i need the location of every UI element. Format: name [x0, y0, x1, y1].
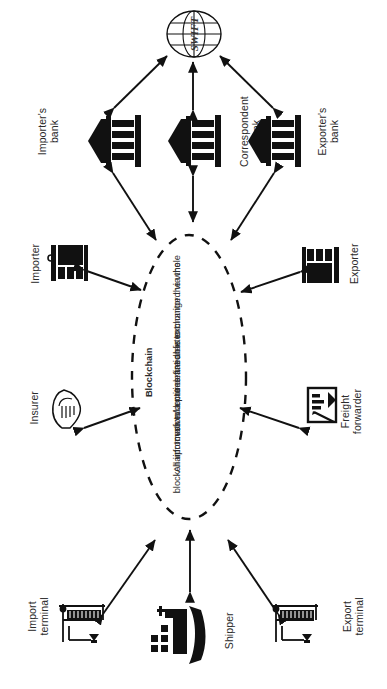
arrow-importers-bank-blockchain: [113, 173, 156, 240]
entity-label-freight-forwarder: Freight forwarder: [340, 379, 363, 445]
arrow-importers-bank-swift: [114, 56, 167, 108]
entity-node-import-terminal: [55, 600, 111, 650]
bank-node-correspondent-bank: [166, 112, 222, 170]
entity-label-importer: Importer: [30, 234, 42, 294]
handshake-icon: [46, 382, 92, 436]
entity-label-import-terminal: Import terminal: [27, 586, 50, 648]
blockchain-node: Blockchain All information/documentation…: [128, 232, 250, 522]
factory-icon: [300, 242, 344, 288]
port-crane-icon: [268, 600, 324, 650]
diagram-canvas: SWIFT Importer's bank: [0, 0, 387, 689]
bank-icon: [166, 112, 222, 170]
swift-label: SWIFT: [188, 16, 200, 52]
entity-node-export-terminal: [268, 600, 324, 650]
bank-label-exporters-bank: Exporter's bank: [317, 101, 340, 163]
swift-network-node: SWIFT: [163, 8, 225, 60]
bank-icon: [86, 112, 142, 170]
port-crane-icon: [55, 600, 111, 650]
arrow-exporters-bank-blockchain: [231, 173, 274, 240]
ship-icon: [150, 597, 216, 673]
globe-icon: SWIFT: [163, 8, 225, 60]
entity-label-shipper: Shipper: [224, 601, 236, 661]
blockchain-title: Blockchain: [144, 327, 155, 417]
entity-node-shipper: [150, 597, 216, 673]
entity-label-exporter: Exporter: [349, 234, 361, 294]
bank-label-importers-bank: Importer's bank: [37, 102, 60, 162]
blockchain-description-line3: process to a pre-defined extent.: [172, 274, 183, 504]
entity-node-exporter: [300, 242, 344, 288]
bank-node-importers-bank: [86, 112, 142, 170]
entity-node-importer: [46, 240, 90, 286]
bank-node-exporters-bank: [246, 112, 302, 170]
bank-icon: [246, 112, 302, 170]
entity-label-insurer: Insurer: [29, 378, 41, 438]
factory-icon: [46, 240, 90, 286]
entity-node-insurer: [46, 382, 92, 436]
entity-label-export-terminal: Export terminal: [342, 586, 365, 648]
